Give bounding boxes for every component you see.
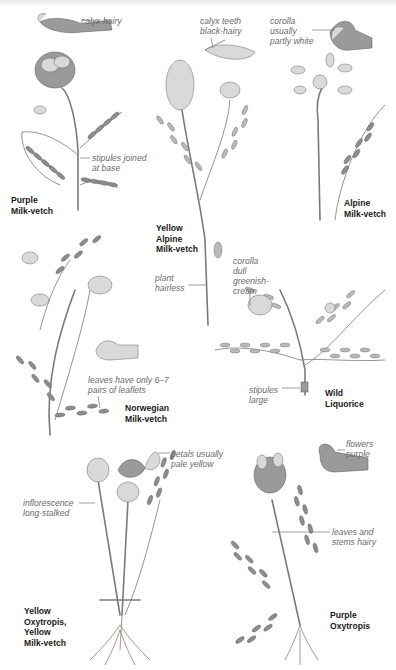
annotation-leaves-6-7-pairs: leaves have only 6–7 pairs of leaflets <box>88 375 169 395</box>
norwegian-milk-vetch-illustration <box>15 230 138 435</box>
label-alpine-milk-vetch: Alpine Milk-vetch <box>344 198 386 219</box>
annotation-inflorescence-long-stalked: inflorescence long-stalked <box>23 498 74 518</box>
botanical-illustrations <box>0 0 396 670</box>
annotation-stipules-joined: stipules joined at base <box>92 153 146 173</box>
label-purple-oxytropis: Purple Oxytropis <box>330 610 370 631</box>
label-purple-milk-vetch: Purple Milk-vetch <box>11 195 53 216</box>
annotation-petals-pale-yellow: petals usually pale yellow <box>171 449 223 469</box>
alpine-milk-vetch-illustration <box>291 21 385 220</box>
annotation-leaves-stems-hairy: leaves and stems hairy <box>332 527 376 547</box>
label-yellow-alpine-milk-vetch: Yellow Alpine Milk-vetch <box>156 223 198 255</box>
annotation-corolla-greenish-cream: corolla dull greenish- cream <box>233 256 269 296</box>
wild-liquorice-illustration <box>215 286 385 395</box>
label-wild-liquorice: Wild Liquorice <box>325 388 364 409</box>
annotation-corolla-partly-white: corolla usually partly white <box>270 16 313 46</box>
label-yellow-oxytropis: Yellow Oxytropis, Yellow Milk-vetch <box>24 606 67 648</box>
purple-oxytropis-illustration <box>226 444 368 665</box>
annotation-flowers-purple: flowers purple <box>346 439 373 459</box>
label-norwegian-milk-vetch: Norwegian Milk-vetch <box>125 403 169 424</box>
annotation-calyx-hairy: calyx hairy <box>81 16 122 26</box>
yellow-oxytropis-illustration <box>87 448 176 665</box>
annotation-stipules-large: stipules large <box>249 385 278 405</box>
purple-milk-vetch-illustration <box>22 14 122 210</box>
annotation-plant-hairless: plant hairless <box>155 273 185 293</box>
annotation-calyx-teeth: calyx teeth black-hairy <box>200 16 242 36</box>
